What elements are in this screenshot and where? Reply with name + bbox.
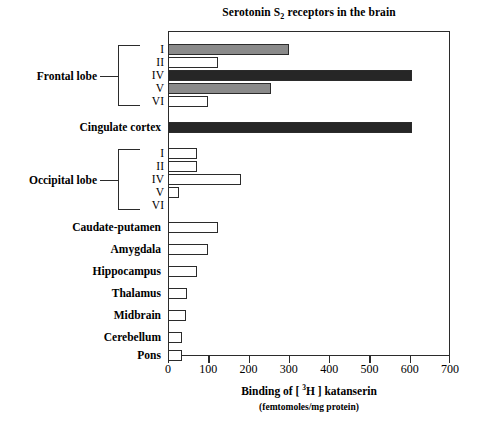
bar (168, 122, 412, 133)
bar (168, 96, 208, 107)
x-tick-label: 0 (165, 362, 171, 377)
y-axis-label: I (140, 148, 164, 159)
bracket-bottom-arm (118, 209, 140, 210)
x-axis-title-pre: Binding of [ (241, 385, 302, 397)
chart-container: Serotonin S2 receptors in the brain IIII… (0, 0, 491, 433)
bar (168, 57, 218, 68)
bar (168, 332, 182, 343)
chart-title-tail: receptors in the brain (284, 6, 395, 18)
x-tick-label: 700 (441, 362, 459, 377)
y-axis-label: IV (140, 174, 164, 185)
x-axis-units: (femtomoles/mg protein) (168, 402, 450, 412)
x-tick-label: 600 (401, 362, 419, 377)
bar (168, 44, 289, 55)
y-axis-label: I (140, 44, 164, 55)
y-axis-label: Thalamus (0, 288, 164, 299)
x-axis-title: Binding of [ 3H ] katanserin (168, 383, 450, 397)
x-tick-label: 100 (199, 362, 217, 377)
bar (168, 70, 412, 81)
y-axis-label: V (140, 83, 164, 94)
bar (168, 174, 241, 185)
x-tick-label: 500 (360, 362, 378, 377)
y-axis-label: Pons (0, 350, 164, 361)
y-axis-label: Caudate-putamen (0, 222, 164, 233)
bar (168, 244, 208, 255)
bars-layer (168, 31, 450, 356)
x-axis-title-post: H ] katanserin (306, 385, 377, 397)
bar (168, 187, 179, 198)
y-axis-label: Cingulate cortex (0, 122, 164, 133)
x-tick-label: 400 (320, 362, 338, 377)
x-tick-label: 300 (280, 362, 298, 377)
group-label: Frontal lobe (37, 70, 97, 82)
x-tick-label: 200 (240, 362, 258, 377)
group-bracket (118, 149, 140, 210)
group-label: Occipital lobe (29, 174, 97, 186)
bar (168, 288, 187, 299)
bracket-stem (100, 180, 118, 181)
bracket-spine (118, 45, 119, 106)
y-axis-label: Amygdala (0, 244, 164, 255)
bar (168, 266, 197, 277)
bracket-stem (100, 76, 118, 77)
bar (168, 83, 271, 94)
y-axis-label: V (140, 187, 164, 198)
bar (168, 310, 186, 321)
bar (168, 148, 197, 159)
x-axis-tick-labels: 0100200300400500600700 (0, 362, 491, 378)
bar (168, 222, 218, 233)
y-axis-label: VI (140, 96, 164, 107)
y-axis-label: II (140, 57, 164, 68)
bracket-top-arm (118, 45, 140, 46)
y-axis-label: VI (140, 200, 164, 211)
group-bracket (118, 45, 140, 106)
y-axis-label: IV (140, 70, 164, 81)
y-axis-label: Cerebellum (0, 332, 164, 343)
y-axis-label: II (140, 161, 164, 172)
bar (168, 161, 197, 172)
y-axis-label: Hippocampus (0, 266, 164, 277)
bracket-bottom-arm (118, 105, 140, 106)
bracket-spine (118, 149, 119, 210)
chart-title: Serotonin S2 receptors in the brain (168, 6, 450, 21)
chart-title-main: Serotonin S (222, 6, 280, 18)
bracket-top-arm (118, 149, 140, 150)
y-axis-label: Midbrain (0, 310, 164, 321)
